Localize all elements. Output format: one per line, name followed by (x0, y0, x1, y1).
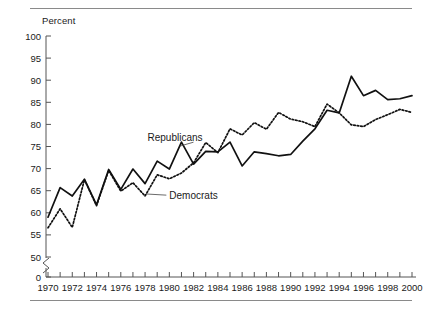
series-line-republicans (48, 76, 412, 217)
line-chart-plot: 100959085807570656055500 197019721974197… (0, 0, 427, 309)
x-tick-label: 1984 (207, 282, 228, 293)
x-tick-label: 1982 (183, 282, 204, 293)
y-tick-label: 60 (30, 207, 41, 218)
data-series-group (48, 76, 412, 228)
y-tick-label: 65 (30, 185, 41, 196)
x-tick-label: 1994 (329, 282, 350, 293)
x-tick-label: 1980 (159, 282, 180, 293)
y-tick-label: 85 (30, 97, 41, 108)
x-tick-label: 1970 (37, 282, 58, 293)
x-tick-label: 1998 (377, 282, 398, 293)
y-tick-label: 75 (30, 141, 41, 152)
y-tick-label: 0 (36, 272, 41, 283)
y-tick-label: 100 (25, 31, 41, 42)
x-tick-label: 1972 (62, 282, 83, 293)
y-tick-label: 95 (30, 53, 41, 64)
y-tick-label: 55 (30, 229, 41, 240)
x-tick-label: 1992 (304, 282, 325, 293)
y-tick-label: 90 (30, 75, 41, 86)
x-axis: 1970197219741976197819801982198419861988… (37, 272, 422, 293)
leader-line-democrats (147, 194, 167, 195)
x-tick-label: 1976 (110, 282, 131, 293)
series-label-republicans: Republicans (147, 132, 202, 143)
x-tick-label: 1986 (232, 282, 253, 293)
series-annotations: RepublicansDemocrats (147, 132, 218, 200)
series-line-democrats (48, 104, 412, 228)
series-label-democrats: Democrats (169, 190, 217, 201)
y-axis: 100959085807570656055500 (25, 31, 51, 283)
y-tick-label: 70 (30, 163, 41, 174)
x-tick-label: 1988 (256, 282, 277, 293)
y-tick-label: 50 (30, 252, 41, 263)
x-tick-label: 1990 (280, 282, 301, 293)
x-tick-label: 1996 (353, 282, 374, 293)
x-tick-label: 2000 (401, 282, 422, 293)
y-tick-label: 80 (30, 119, 41, 130)
x-tick-label: 1978 (134, 282, 155, 293)
x-tick-label: 1974 (86, 282, 107, 293)
figure-container: Percent 100959085807570656055500 1970197… (0, 0, 427, 309)
